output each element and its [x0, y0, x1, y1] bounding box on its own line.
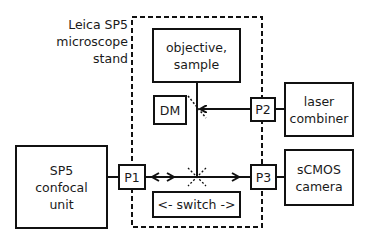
box-label: laser	[290, 93, 349, 110]
objective-sample-box: objective, sample	[152, 28, 241, 83]
box-label: combiner	[290, 110, 349, 127]
box-label: objective,	[166, 39, 227, 56]
box-label: <- switch ->	[158, 196, 236, 213]
switch-box: <- switch ->	[152, 191, 241, 218]
microscope-stand-label: Leica SP5 microscope stand	[40, 16, 128, 67]
label-line: Leica SP5	[40, 16, 128, 33]
box-label: unit	[35, 196, 88, 213]
port-label: P2	[255, 101, 271, 118]
scmos-camera-box: sCMOS camera	[284, 149, 354, 206]
dm-box: DM	[153, 95, 187, 125]
port-p1: P1	[118, 164, 146, 190]
box-label: SP5	[35, 162, 88, 179]
port-p3: P3	[250, 164, 277, 190]
port-label: P3	[256, 169, 272, 186]
sp5-confocal-box: SP5 confocal unit	[15, 145, 108, 229]
box-label: sample	[166, 56, 227, 73]
label-line: stand	[40, 50, 128, 67]
box-label: sCMOS	[295, 161, 342, 178]
laser-combiner-box: laser combiner	[284, 82, 354, 137]
label-line: microscope	[40, 33, 128, 50]
box-label: DM	[160, 102, 180, 119]
box-label: confocal	[35, 179, 88, 196]
port-p2: P2	[250, 97, 276, 122]
box-label: camera	[295, 178, 342, 195]
port-label: P1	[124, 169, 140, 186]
